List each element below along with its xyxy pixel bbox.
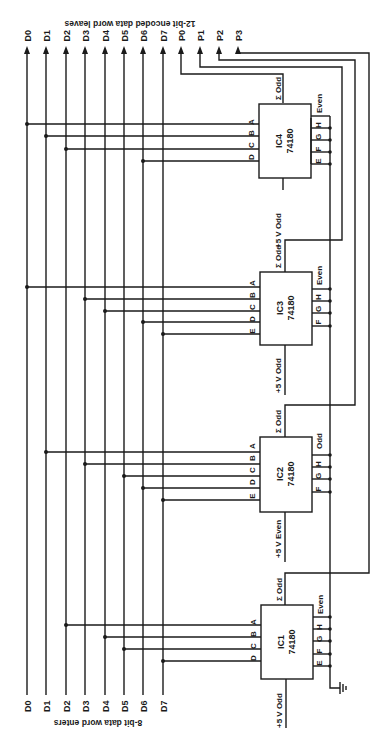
svg-text:74180: 74180 xyxy=(286,461,296,486)
svg-text:A: A xyxy=(249,619,258,625)
svg-text:Even: Even xyxy=(315,94,324,113)
svg-text:Σ Odd: Σ Odd xyxy=(274,410,283,433)
svg-text:IC3: IC3 xyxy=(275,301,285,315)
svg-text:IC2: IC2 xyxy=(275,467,285,481)
label-P3: P3 xyxy=(234,30,244,41)
svg-text:A: A xyxy=(248,280,257,286)
svg-text:C: C xyxy=(248,467,257,473)
svg-text:B: B xyxy=(247,130,256,136)
svg-text:A: A xyxy=(247,119,256,125)
svg-text:E: E xyxy=(248,328,257,334)
in-label-D1: D1 xyxy=(42,700,52,712)
svg-text:H: H xyxy=(314,122,323,128)
parity-encoder-diagram: 12-bit encoded data word leaves D0 D1 D2… xyxy=(0,0,386,742)
ground-icon xyxy=(340,682,346,694)
svg-text:F: F xyxy=(314,486,323,491)
in-label-D2: D2 xyxy=(62,700,72,712)
arrow-up-icon xyxy=(24,46,241,54)
label-D1: D1 xyxy=(42,30,52,42)
svg-text:F: F xyxy=(315,648,324,653)
svg-text:G: G xyxy=(314,134,323,140)
side-bus xyxy=(330,116,340,688)
label-D4: D4 xyxy=(101,30,111,42)
svg-text:A: A xyxy=(248,443,257,449)
svg-text:+5 V Odd: +5 V Odd xyxy=(275,693,284,728)
svg-text:B: B xyxy=(248,455,257,461)
ic3: IC3 74180 Σ Odd +5 V Odd A B C D E Even … xyxy=(25,245,332,395)
svg-text:C: C xyxy=(249,643,258,649)
svg-text:E: E xyxy=(314,158,323,164)
svg-text:G: G xyxy=(314,473,323,479)
svg-text:IC4: IC4 xyxy=(274,134,284,148)
in-label-D5: D5 xyxy=(120,700,130,712)
output-title: 12-bit encoded data word leaves xyxy=(64,19,195,29)
label-D5: D5 xyxy=(120,30,130,42)
svg-text:E: E xyxy=(248,493,257,499)
ic2: IC2 74180 Σ Odd +5 V Even A B C D E Odd … xyxy=(44,410,332,562)
svg-text:D: D xyxy=(247,154,256,160)
svg-text:+5 V Odd: +5 V Odd xyxy=(274,358,283,393)
input-title: 8-bit data word enters xyxy=(54,718,143,728)
svg-text:H: H xyxy=(314,461,323,467)
label-D6: D6 xyxy=(139,30,149,42)
in-label-D7: D7 xyxy=(159,700,169,712)
ic4: IC4 74180 Σ Odd +5 V Odd A B C D Even H … xyxy=(25,77,332,248)
in-label-D3: D3 xyxy=(81,700,91,712)
svg-text:G: G xyxy=(314,306,323,312)
svg-text:D: D xyxy=(248,316,257,322)
svg-text:D: D xyxy=(248,479,257,485)
label-P0: P0 xyxy=(177,30,187,41)
svg-text:+5 V Even: +5 V Even xyxy=(274,520,283,558)
in-label-D6: D6 xyxy=(139,700,149,712)
svg-text:IC1: IC1 xyxy=(276,635,286,649)
svg-text:74180: 74180 xyxy=(287,629,297,654)
svg-text:H: H xyxy=(314,294,323,300)
svg-text:B: B xyxy=(249,631,258,637)
svg-text:B: B xyxy=(248,292,257,298)
svg-text:Even: Even xyxy=(316,595,325,614)
svg-text:Σ Odd: Σ Odd xyxy=(274,77,283,100)
svg-text:Σ Odd: Σ Odd xyxy=(275,578,284,601)
label-D7: D7 xyxy=(159,30,169,42)
label-D3: D3 xyxy=(81,30,91,42)
label-P2: P2 xyxy=(215,30,225,41)
input-labels: D0 D1 D2 D3 D4 D5 D6 D7 xyxy=(23,700,169,712)
svg-text:Odd: Odd xyxy=(315,433,324,449)
svg-text:C: C xyxy=(247,142,256,148)
svg-text:E: E xyxy=(315,660,324,666)
svg-text:F: F xyxy=(314,319,323,324)
label-P1: P1 xyxy=(196,30,206,41)
svg-text:74180: 74180 xyxy=(286,295,296,320)
svg-text:D: D xyxy=(249,655,258,661)
svg-text:Even: Even xyxy=(315,266,324,285)
output-labels: D0 D1 D2 D3 D4 D5 D6 D7 P0 P1 P2 P3 xyxy=(23,30,244,42)
label-D0: D0 xyxy=(23,30,33,42)
svg-text:Σ Odd: Σ Odd xyxy=(274,245,283,268)
in-label-D0: D0 xyxy=(23,700,33,712)
in-label-D4: D4 xyxy=(101,700,111,712)
svg-text:74180: 74180 xyxy=(285,128,295,153)
svg-text:C: C xyxy=(248,304,257,310)
svg-text:F: F xyxy=(314,146,323,151)
svg-text:+5 V Odd: +5 V Odd xyxy=(274,213,283,248)
label-D2: D2 xyxy=(62,30,72,42)
